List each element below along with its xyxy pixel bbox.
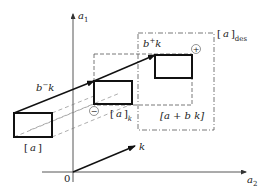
label-b-plus-k: b+k bbox=[143, 37, 161, 49]
axis-label-a1: a1 bbox=[78, 10, 88, 24]
plus-sign-icon: + bbox=[192, 45, 201, 55]
origin-label: 0 bbox=[64, 173, 70, 184]
label-a-k: [a]k bbox=[110, 108, 132, 123]
vector-b-plus-k bbox=[94, 55, 155, 81]
interval-box-a bbox=[14, 113, 52, 137]
interval-diagram: a1 a2 0 b−k b+k k [a] [a]k [a + b k] [a]… bbox=[0, 0, 270, 195]
svg-text:−: − bbox=[91, 107, 98, 116]
axis-label-a2: a2 bbox=[247, 174, 257, 188]
label-k: k bbox=[139, 141, 145, 152]
label-a-des: [a]des bbox=[217, 28, 247, 43]
label-b-minus-k: b−k bbox=[36, 81, 54, 93]
label-a-plus-bk: [a + b k] bbox=[160, 110, 204, 121]
label-a: [a] bbox=[24, 142, 42, 153]
interval-box-a-plus-bk bbox=[155, 55, 192, 78]
minus-sign-icon: − bbox=[90, 107, 99, 117]
svg-text:+: + bbox=[193, 45, 200, 54]
vector-k bbox=[73, 146, 135, 172]
interval-box-a-k bbox=[94, 81, 132, 104]
